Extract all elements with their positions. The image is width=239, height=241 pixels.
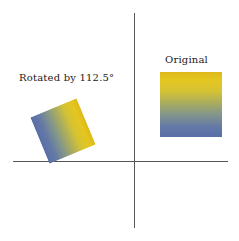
vertical-axis bbox=[134, 13, 135, 228]
original-label: Original bbox=[165, 54, 208, 65]
figure-canvas: Original Rotated by 112.5° bbox=[0, 0, 239, 241]
rotated-label: Rotated by 112.5° bbox=[19, 72, 114, 83]
original-square bbox=[160, 72, 222, 137]
rotated-square-container bbox=[30, 98, 95, 163]
rotated-square bbox=[30, 98, 95, 163]
horizontal-axis bbox=[13, 161, 228, 162]
